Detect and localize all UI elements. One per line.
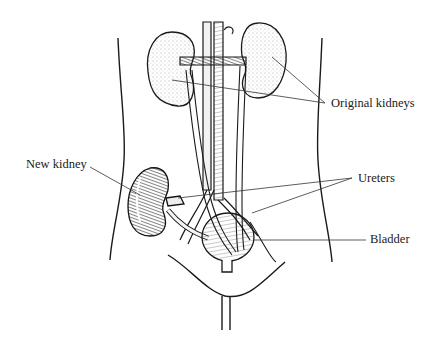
original-kidney-left bbox=[147, 32, 194, 106]
label-bladder: Bladder bbox=[370, 233, 410, 246]
original-kidney-right bbox=[242, 23, 287, 98]
leader-ureter-original bbox=[252, 178, 352, 213]
label-original-kidneys: Original kidneys bbox=[331, 97, 415, 110]
label-new-kidney: New kidney bbox=[26, 158, 87, 171]
label-ureters: Ureters bbox=[358, 172, 395, 185]
leader-new-kidney bbox=[90, 167, 140, 195]
bladder bbox=[202, 213, 254, 272]
